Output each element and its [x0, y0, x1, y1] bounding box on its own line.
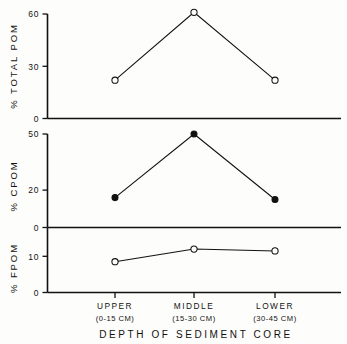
- panel1-tick-label-60: 60: [28, 9, 39, 19]
- x-axis-title: DEPTH OF SEDIMENT CORE: [99, 329, 293, 340]
- x-axis-labels: UPPER (0-15 CM) MIDDLE (15-30 CM) LOWER …: [96, 301, 297, 323]
- panel1-point-upper: [112, 77, 118, 83]
- panel2-series-line: [115, 134, 275, 200]
- panel3-tick-label-0: 0: [34, 288, 39, 298]
- panel3-point-lower: [272, 248, 278, 254]
- panel1-tick-label-30: 30: [28, 62, 39, 72]
- panel1-series-line: [115, 12, 275, 80]
- panel3-point-middle: [191, 246, 197, 252]
- panel3-axis-title: % FPOM: [8, 243, 19, 293]
- panel2-tick-label-0: 0: [34, 223, 39, 233]
- x-label-lower-name: LOWER: [256, 301, 294, 311]
- panel2-axis-title: % CPOM: [8, 161, 19, 212]
- panel-fpom: 10 0 % FPOM: [8, 228, 341, 298]
- panel3-tick-label-10: 10: [28, 252, 39, 262]
- x-label-middle-name: MIDDLE: [174, 301, 214, 311]
- panel-cpom: 50 20 0 % CPOM: [8, 129, 341, 233]
- panel1-point-middle: [191, 9, 197, 15]
- panel2-point-upper: [112, 195, 118, 201]
- panel3-point-upper: [112, 259, 118, 265]
- panel2-point-lower: [272, 197, 278, 203]
- panel1-axis-title: % TOTAL POM: [8, 23, 19, 108]
- panel1-tick-label-0: 0: [34, 114, 39, 124]
- panel2-tick-label-20: 20: [28, 185, 39, 195]
- panel-total-pom: 60 30 0 % TOTAL POM: [8, 9, 341, 124]
- panel2-tick-label-50: 50: [28, 129, 39, 139]
- panel2-point-middle: [191, 131, 197, 137]
- x-label-upper-range: (0-15 CM): [96, 314, 135, 323]
- panel1-point-lower: [272, 77, 278, 83]
- x-label-upper-name: UPPER: [97, 301, 133, 311]
- figure-canvas: 60 30 0 % TOTAL POM 50 20 0 % CPOM 10: [0, 0, 347, 344]
- x-label-lower-range: (30-45 CM): [253, 314, 296, 323]
- x-label-middle-range: (15-30 CM): [172, 314, 215, 323]
